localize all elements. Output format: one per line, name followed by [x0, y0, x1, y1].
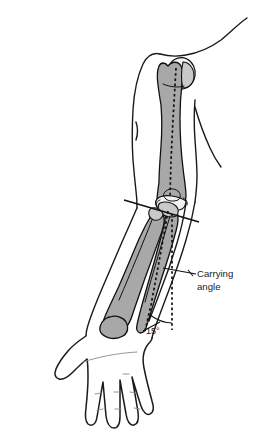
- distal-radius: [100, 316, 128, 338]
- angle-value-label: 15°: [146, 326, 160, 336]
- carrying-angle-label-line1: Carrying: [197, 268, 233, 279]
- carrying-angle-figure: Carrying angle 15°: [0, 0, 259, 431]
- anatomy-illustration: Carrying angle 15°: [0, 0, 259, 431]
- carrying-angle-label-line2: angle: [197, 281, 220, 292]
